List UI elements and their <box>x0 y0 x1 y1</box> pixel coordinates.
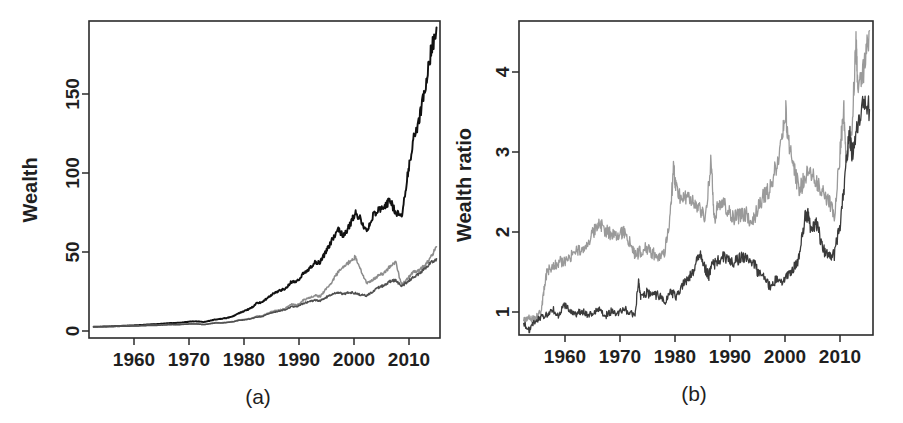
y-tick-label: 3 <box>492 147 513 158</box>
panel-b-caption: (b) <box>681 382 707 405</box>
x-tick-label: 1970 <box>599 346 641 367</box>
chart-panel-a: 0 50 100 150 Wealth 1960 1970 1980 1990 … <box>0 0 452 423</box>
x-tick-label: 1980 <box>223 349 265 370</box>
x-tick-label: 1960 <box>544 346 586 367</box>
y-tick-label: 4 <box>492 66 513 77</box>
y-tick-label: 0 <box>62 326 83 337</box>
y-tick-label: 50 <box>62 241 83 262</box>
chart-panel-b: 1 2 3 4 Wealth ratio 1960 1970 1980 1990… <box>451 0 903 423</box>
panel-a-svg: 0 50 100 150 Wealth 1960 1970 1980 1990 … <box>0 0 452 423</box>
series-line-ratio-dark <box>524 96 870 333</box>
x-tick-label: 2010 <box>388 349 430 370</box>
panel-b-y-axis-title: Wealth ratio <box>453 128 475 242</box>
y-tick-label: 1 <box>492 306 513 317</box>
series-line-ratio-light <box>524 31 870 323</box>
panel-a-caption: (a) <box>245 385 271 408</box>
panel-b-x-axis: 1960 1970 1980 1990 2000 2010 <box>544 335 861 367</box>
figure-container: 0 50 100 150 Wealth 1960 1970 1980 1990 … <box>0 0 903 423</box>
panel-a-plot-frame <box>89 21 440 338</box>
y-tick-label: 2 <box>492 227 513 238</box>
panel-a-y-axis: 0 50 100 150 <box>62 78 90 336</box>
x-tick-label: 2000 <box>333 349 375 370</box>
x-tick-label: 2000 <box>764 346 806 367</box>
panel-b-series-group <box>524 31 870 333</box>
y-tick-label: 100 <box>62 157 83 189</box>
series-line-strategy-black <box>94 27 437 326</box>
panel-a-series-group <box>94 27 437 326</box>
x-tick-label: 1980 <box>654 346 696 367</box>
panel-b-svg: 1 2 3 4 Wealth ratio 1960 1970 1980 1990… <box>451 0 903 423</box>
x-tick-label: 1990 <box>278 349 320 370</box>
x-tick-label: 1990 <box>709 346 751 367</box>
panel-b-y-axis: 1 2 3 4 <box>492 66 520 317</box>
panel-a-x-axis: 1960 1970 1980 1990 2000 2010 <box>113 338 430 370</box>
y-tick-label: 150 <box>62 78 83 110</box>
x-tick-label: 1970 <box>168 349 210 370</box>
series-line-strategy-darkgray <box>94 259 437 327</box>
x-tick-label: 2010 <box>819 346 861 367</box>
x-tick-label: 1960 <box>113 349 155 370</box>
panel-b-plot-frame <box>519 21 873 335</box>
panel-a-y-axis-title: Wealth <box>19 157 41 222</box>
